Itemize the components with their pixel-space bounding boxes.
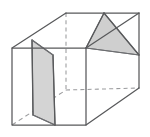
figure-stage — [0, 0, 150, 137]
top-left-slant-edge — [12, 13, 66, 48]
visible-edge-group — [12, 13, 139, 125]
geometric-solid-figure — [0, 0, 150, 137]
hidden-edge-group — [12, 13, 139, 125]
bottom-right-slant-edge — [86, 88, 139, 125]
hidden-bottom-back-right-edge — [66, 88, 139, 90]
left-cross-section-plane — [32, 40, 55, 125]
